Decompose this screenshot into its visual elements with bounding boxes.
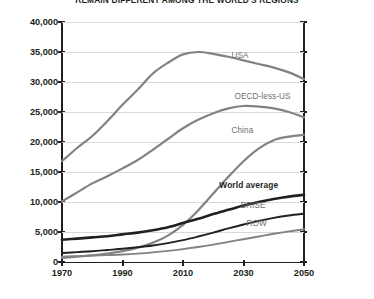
x-tick-label: 1970: [32, 268, 92, 278]
series-lines: [62, 22, 304, 262]
series-line-brise: [62, 214, 304, 253]
plot-area: [62, 22, 304, 262]
gridline: [62, 262, 304, 263]
y-tick-label: 10,000: [0, 198, 58, 207]
series-label-row: ROW: [247, 219, 267, 228]
chart-container: REMAIN DIFFERENT AMONG THE WORLD'S REGIO…: [0, 0, 374, 299]
series-label-world-average: World average: [219, 181, 278, 190]
series-line-row: [62, 229, 304, 256]
y-tick-label: 40,000: [0, 18, 58, 27]
series-label-usa: USA: [231, 51, 248, 60]
y-tick-label: 15,000: [0, 168, 58, 177]
series-line-world-average: [62, 195, 304, 240]
y-tick-label: 5,000: [0, 228, 58, 237]
x-tick-label: 2050: [274, 268, 334, 278]
series-label-oecd-less-us: OECD-less-US: [234, 92, 290, 101]
y-tick-label: 35,000: [0, 48, 58, 57]
x-tick-label: 2010: [153, 268, 213, 278]
chart-title: REMAIN DIFFERENT AMONG THE WORLD'S REGIO…: [0, 0, 374, 5]
x-tick-label: 1990: [93, 268, 153, 278]
y-tick-label: 20,000: [0, 138, 58, 147]
series-label-china: China: [231, 126, 253, 135]
series-label-brise: BRISE: [240, 201, 265, 210]
y-tick-label: 0: [0, 258, 58, 267]
y-tick-label: 30,000: [0, 78, 58, 87]
y-tick-label: 25,000: [0, 108, 58, 117]
x-tick-label: 2030: [214, 268, 274, 278]
